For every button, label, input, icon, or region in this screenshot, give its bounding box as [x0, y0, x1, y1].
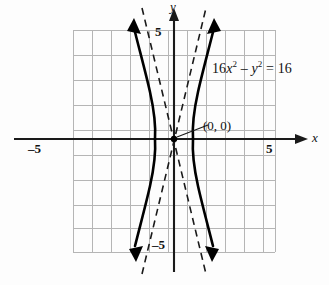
equation-coefficient: 16: [212, 61, 226, 76]
equation-right-hand-side: 16: [278, 61, 292, 76]
x-tick-label-negative-5: –5: [28, 141, 41, 157]
x-axis: [14, 134, 308, 144]
x-axis-arrowhead: [295, 134, 308, 144]
arrowhead-left-bottom: [129, 246, 143, 262]
graph-figure: y x –5 5 5 –5 (0, 0) 16x2 – y2 = 16: [0, 0, 329, 285]
equation-annotation: 16x2 – y2 = 16: [212, 61, 292, 77]
x-axis-label: x: [312, 130, 318, 146]
x-tick-label-positive-5: 5: [266, 141, 273, 157]
equation-minus-sign: –: [241, 61, 248, 76]
y-axis-label: y: [170, 0, 176, 15]
y-tick-label-negative-5: –5: [152, 237, 165, 253]
y-tick-label-positive-5: 5: [155, 24, 162, 40]
origin-point-label: (0, 0): [203, 118, 231, 134]
arrowhead-right-bottom: [205, 246, 219, 262]
arrowhead-right-top: [207, 18, 221, 34]
arrowhead-left-top: [127, 18, 141, 34]
equation-equals-sign: =: [266, 61, 274, 76]
